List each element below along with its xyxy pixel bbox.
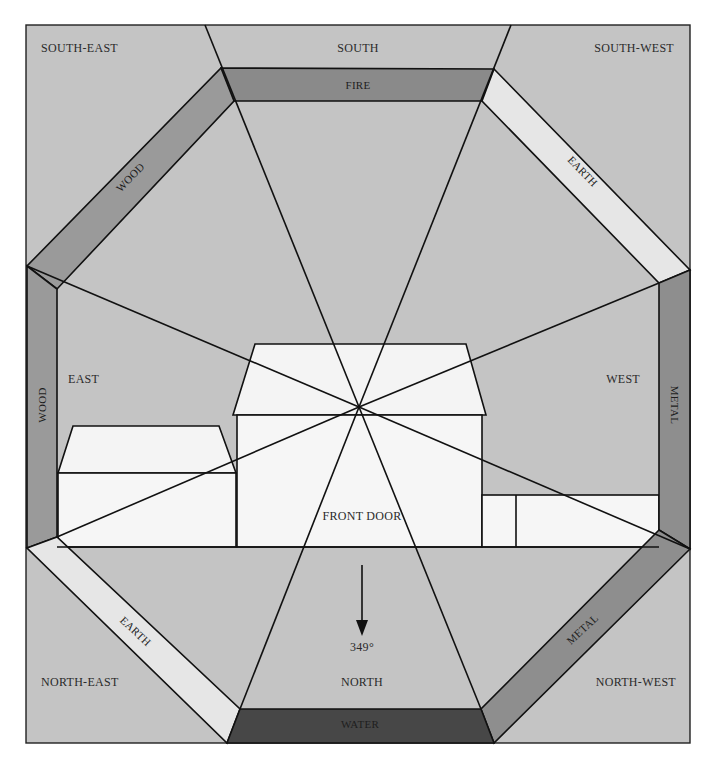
label-south-west: SOUTH-WEST bbox=[594, 41, 674, 55]
main-house-body bbox=[237, 415, 482, 547]
label-front-door: FRONT DOOR bbox=[322, 509, 401, 523]
label-metal-west: METAL bbox=[669, 386, 681, 425]
label-south-east: SOUTH-EAST bbox=[41, 41, 118, 55]
label-north: NORTH bbox=[341, 675, 383, 689]
compass-bearing: 349° bbox=[350, 640, 374, 654]
label-north-east: NORTH-EAST bbox=[41, 675, 119, 689]
label-west: WEST bbox=[606, 372, 640, 386]
label-wood-east: WOOD bbox=[36, 387, 48, 422]
left-house-body bbox=[58, 473, 236, 547]
bagua-diagram: SOUTH-EAST SOUTH SOUTH-WEST EAST WEST NO… bbox=[0, 0, 708, 758]
label-north-west: NORTH-WEST bbox=[596, 675, 677, 689]
label-fire: FIRE bbox=[345, 79, 370, 91]
label-south: SOUTH bbox=[337, 41, 379, 55]
left-house-roof bbox=[58, 426, 236, 473]
label-east: EAST bbox=[68, 372, 100, 386]
right-annex bbox=[482, 495, 659, 547]
label-water: WATER bbox=[341, 718, 380, 730]
